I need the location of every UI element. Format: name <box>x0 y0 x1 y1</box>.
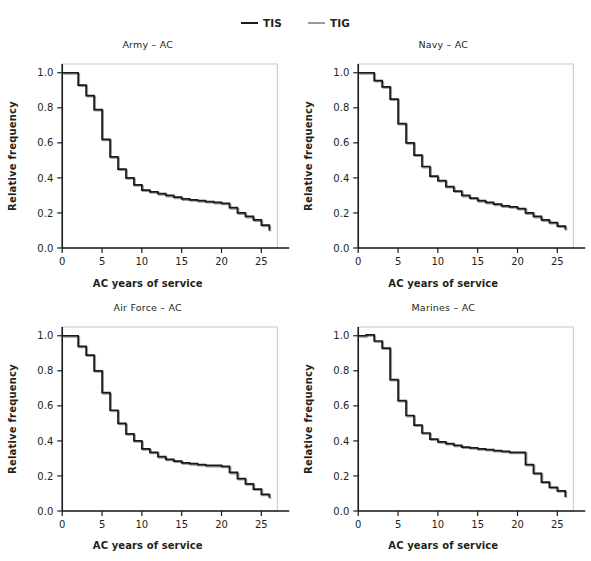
legend-entry-tig: TIG <box>308 18 350 29</box>
x-tick-label: 0 <box>355 519 361 530</box>
y-tick-label: 0.2 <box>37 208 53 219</box>
y-tick-label: 1.0 <box>333 67 349 78</box>
x-tick-label: 10 <box>136 519 149 530</box>
x-axis-title-army: AC years of service <box>0 278 296 289</box>
panel-marines: Marines – AC 0.00.20.40.60.81.0051015202… <box>296 299 591 561</box>
y-tick-label: 0.2 <box>37 470 53 481</box>
legend: TIS TIG <box>0 18 591 29</box>
legend-label-tig: TIG <box>330 18 350 29</box>
legend-line-swatch-tig <box>308 22 325 24</box>
y-tick-label: 0.0 <box>333 505 349 516</box>
y-tick-label: 1.0 <box>37 67 53 78</box>
legend-line-swatch-tis <box>241 22 258 24</box>
x-tick-label: 20 <box>511 519 524 530</box>
y-axis-title: Relative frequency <box>7 101 18 211</box>
x-tick-label: 15 <box>175 519 188 530</box>
panel-grid: Army – AC 0.00.20.40.60.81.00510152025Re… <box>0 36 591 561</box>
x-tick-label: 20 <box>511 256 524 267</box>
x-tick-label: 0 <box>59 256 65 267</box>
series-line-tis <box>62 73 269 231</box>
series-line-tis <box>358 73 565 230</box>
plot-frame <box>62 64 277 248</box>
y-tick-label: 0.6 <box>333 137 349 148</box>
x-tick-label: 0 <box>59 519 65 530</box>
x-tick-label: 25 <box>550 519 563 530</box>
y-tick-label: 0.2 <box>333 208 349 219</box>
y-tick-label: 0.8 <box>333 102 349 113</box>
y-tick-label: 1.0 <box>333 330 349 341</box>
x-tick-label: 20 <box>215 256 228 267</box>
y-tick-label: 0.6 <box>37 400 53 411</box>
x-tick-label: 5 <box>394 256 400 267</box>
y-tick-label: 0.4 <box>37 173 53 184</box>
plot-area-marines: 0.00.20.40.60.81.00510152025Relative fre… <box>296 317 591 551</box>
x-tick-label: 0 <box>355 256 361 267</box>
y-tick-label: 0.8 <box>37 102 53 113</box>
plot-area-army: 0.00.20.40.60.81.00510152025Relative fre… <box>0 54 296 288</box>
plot-area-air-force: 0.00.20.40.60.81.00510152025Relative fre… <box>0 317 296 551</box>
panel-air-force: Air Force – AC 0.00.20.40.60.81.00510152… <box>0 299 296 561</box>
y-tick-label: 0.0 <box>333 243 349 254</box>
x-tick-label: 25 <box>255 256 268 267</box>
series-line-tis <box>358 334 565 496</box>
x-tick-label: 5 <box>99 256 105 267</box>
y-tick-label: 0.0 <box>37 243 53 254</box>
y-axis-title: Relative frequency <box>303 101 314 211</box>
y-tick-label: 0.4 <box>37 435 53 446</box>
x-tick-label: 15 <box>175 256 188 267</box>
x-tick-label: 20 <box>215 519 228 530</box>
x-tick-label: 15 <box>471 519 484 530</box>
y-tick-label: 0.8 <box>37 365 53 376</box>
x-tick-label: 10 <box>431 256 444 267</box>
y-tick-label: 0.8 <box>333 365 349 376</box>
x-tick-label: 5 <box>394 519 400 530</box>
x-tick-label: 15 <box>471 256 484 267</box>
x-axis-title-air-force: AC years of service <box>0 540 296 551</box>
panel-title-marines: Marines – AC <box>296 303 591 313</box>
x-axis-title-navy: AC years of service <box>296 278 591 289</box>
y-axis-title: Relative frequency <box>7 363 18 473</box>
legend-label-tis: TIS <box>263 18 282 29</box>
y-tick-label: 0.6 <box>37 137 53 148</box>
x-tick-label: 25 <box>550 256 563 267</box>
x-tick-label: 25 <box>255 519 268 530</box>
plot-area-navy: 0.00.20.40.60.81.00510152025Relative fre… <box>296 54 591 288</box>
panel-title-air-force: Air Force – AC <box>0 303 296 313</box>
legend-entry-tis: TIS <box>241 18 282 29</box>
y-tick-label: 0.4 <box>333 173 349 184</box>
x-axis-title-marines: AC years of service <box>296 540 591 551</box>
y-tick-label: 0.2 <box>333 470 349 481</box>
y-tick-label: 0.6 <box>333 400 349 411</box>
x-tick-label: 10 <box>431 519 444 530</box>
y-tick-label: 0.4 <box>333 435 349 446</box>
panel-navy: Navy – AC 0.00.20.40.60.81.00510152025Re… <box>296 36 591 299</box>
y-axis-title: Relative frequency <box>303 363 314 473</box>
y-tick-label: 0.0 <box>37 505 53 516</box>
y-tick-label: 1.0 <box>37 330 53 341</box>
panel-army: Army – AC 0.00.20.40.60.81.00510152025Re… <box>0 36 296 299</box>
x-tick-label: 5 <box>99 519 105 530</box>
series-line-tis <box>62 335 269 497</box>
panel-title-army: Army – AC <box>0 40 296 50</box>
x-tick-label: 10 <box>136 256 149 267</box>
panel-title-navy: Navy – AC <box>296 40 591 50</box>
